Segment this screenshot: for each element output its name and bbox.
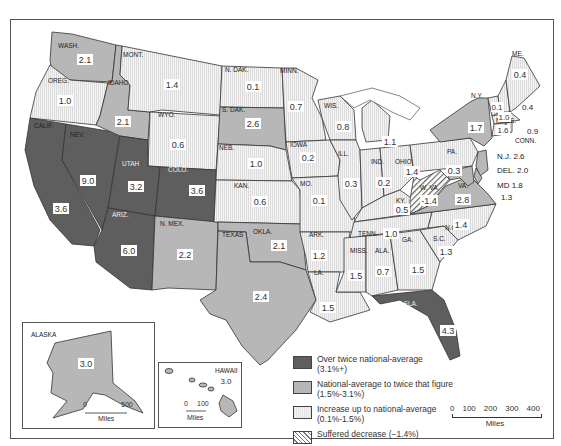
svg-text:NEB.: NEB. [219, 144, 234, 151]
dark-gray-swatch-icon [293, 356, 312, 369]
svg-text:0.6: 0.6 [254, 197, 267, 207]
state-colo[interactable] [155, 167, 216, 222]
svg-text:0.2: 0.2 [378, 178, 391, 188]
alaska-inset: ALASKA 3.0 0 500 Miles [22, 322, 155, 429]
svg-text:2.8: 2.8 [457, 195, 470, 205]
svg-text:0.5: 0.5 [396, 205, 409, 215]
svg-text:MO.: MO. [300, 180, 312, 187]
svg-text:1.4: 1.4 [406, 167, 419, 177]
svg-text:W. VA.: W. VA. [420, 184, 440, 191]
svg-text:N. MEX.: N. MEX. [160, 220, 184, 227]
svg-text:3.6: 3.6 [191, 186, 204, 196]
legend-range: (3.1%+) [317, 364, 423, 374]
svg-text:MD 1.8: MD 1.8 [497, 181, 523, 190]
svg-text:UTAH: UTAH [122, 160, 140, 167]
svg-text:CONN.: CONN. [515, 137, 536, 144]
svg-text:ALASKA: ALASKA [31, 331, 57, 338]
svg-text:S. DAK.: S. DAK. [222, 106, 245, 113]
scale-tick: 300 [505, 404, 518, 413]
svg-text:1.1: 1.1 [384, 137, 397, 147]
svg-text:0.7: 0.7 [377, 267, 390, 277]
svg-text:1.5: 1.5 [412, 265, 425, 275]
svg-text:0.3: 0.3 [448, 166, 461, 176]
scale-tick: 0 [450, 404, 454, 413]
svg-text:KAN.: KAN. [234, 182, 249, 189]
scale-tick: 100 [462, 404, 475, 413]
svg-text:0: 0 [83, 401, 87, 408]
svg-text:2.1: 2.1 [273, 241, 286, 251]
svg-text:N.J. 2.6: N.J. 2.6 [497, 152, 525, 161]
stipple-swatch-icon [293, 406, 312, 419]
svg-text:PA.: PA. [447, 148, 457, 155]
svg-text:HAWAII: HAWAII [215, 367, 238, 374]
svg-text:0.1: 0.1 [313, 196, 326, 206]
legend-range: (1.5%-3.1%) [317, 389, 453, 399]
legend-range: (0.1%-1.5%) [317, 414, 437, 424]
svg-text:WYO.: WYO. [158, 111, 176, 118]
legend-item-decrease: Suffered decrease (−1.4%) [293, 429, 473, 444]
hawaii-scale: 0 100 Miles [184, 400, 209, 421]
svg-text:0.7: 0.7 [290, 102, 303, 112]
scale-tick: 200 [484, 404, 497, 413]
svg-text:0.4: 0.4 [514, 70, 527, 80]
svg-text:FLA.: FLA. [404, 300, 418, 307]
svg-text:4.3: 4.3 [442, 326, 455, 336]
svg-text:2.6: 2.6 [247, 119, 260, 129]
hawaii-inset: HAWAII 3.0 0 100 Miles [158, 362, 242, 428]
svg-text:100: 100 [197, 400, 209, 407]
svg-text:IOWA: IOWA [290, 141, 308, 148]
hawaii-map: HAWAII 3.0 0 100 Miles [159, 363, 241, 427]
svg-text:OKLA.: OKLA. [253, 228, 272, 235]
svg-text:500: 500 [121, 401, 133, 408]
legend-label: Over twice national-average [317, 354, 423, 364]
svg-text:ME.: ME. [512, 50, 524, 57]
svg-text:-1.4: -1.4 [421, 196, 437, 206]
svg-text:0.1: 0.1 [491, 103, 503, 112]
svg-text:ARK.: ARK. [309, 231, 324, 238]
svg-text:1.6: 1.6 [497, 126, 509, 135]
svg-text:1.7: 1.7 [470, 123, 483, 133]
svg-text:0.6: 0.6 [172, 140, 185, 150]
legend-label: Suffered decrease (−1.4%) [317, 429, 419, 439]
scale-unit: Miles [450, 419, 540, 428]
svg-text:0.9: 0.9 [527, 127, 539, 136]
alaska-scale: 0 500 Miles [83, 401, 133, 422]
svg-text:3.2: 3.2 [130, 182, 143, 192]
svg-text:1.5: 1.5 [350, 271, 363, 281]
svg-text:TEXAS: TEXAS [222, 231, 244, 238]
svg-text:1.5: 1.5 [322, 303, 335, 313]
svg-text:N.Y.: N.Y. [471, 92, 483, 99]
svg-text:2.1: 2.1 [117, 117, 130, 127]
medium-gray-swatch-icon [293, 381, 312, 394]
svg-text:GA.: GA. [402, 236, 413, 243]
svg-text:2.1: 2.1 [79, 55, 92, 65]
svg-text:DEL. 2.0: DEL. 2.0 [497, 166, 529, 175]
svg-text:1.4: 1.4 [166, 80, 179, 90]
svg-text:WIS.: WIS. [324, 102, 338, 109]
svg-text:1.0: 1.0 [498, 113, 510, 122]
svg-text:1.4: 1.4 [455, 220, 468, 230]
svg-text:ARIZ.: ARIZ. [112, 211, 129, 218]
svg-text:1.3: 1.3 [440, 247, 453, 257]
svg-text:S.C.: S.C. [433, 235, 446, 242]
svg-text:WASH.: WASH. [58, 42, 79, 49]
svg-text:ILL.: ILL. [338, 150, 349, 157]
svg-text:9.0: 9.0 [82, 176, 95, 186]
svg-text:MINN.: MINN. [280, 67, 299, 74]
map-legend: Over twice national-average(3.1%+) Natio… [293, 354, 473, 446]
legend-item-over-twice: Over twice national-average(3.1%+) [293, 354, 473, 374]
svg-text:0.8: 0.8 [337, 122, 350, 132]
svg-text:2.2: 2.2 [179, 250, 192, 260]
svg-text:0.4: 0.4 [522, 103, 534, 112]
svg-text:1.2: 1.2 [313, 251, 326, 261]
svg-text:0.1: 0.1 [247, 82, 260, 92]
svg-text:COLO.: COLO. [168, 166, 188, 173]
svg-text:0.3: 0.3 [345, 179, 358, 189]
scale-tick: 400 [527, 404, 540, 413]
svg-text:2.4: 2.4 [255, 292, 268, 302]
svg-text:0: 0 [184, 400, 188, 407]
legend-label: Increase up to national-average [317, 404, 437, 414]
hatch-swatch-icon [293, 431, 312, 444]
svg-text:CALIF.: CALIF. [34, 122, 54, 129]
legend-item-national-to-twice: National-average to twice that figure(1.… [293, 379, 473, 399]
